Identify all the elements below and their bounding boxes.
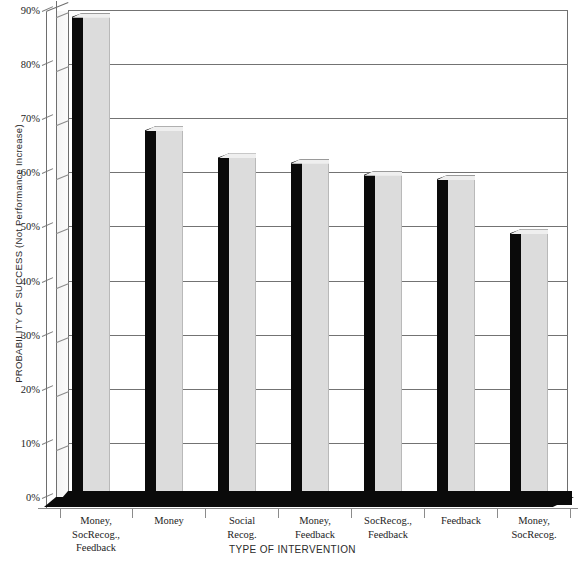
bar-side-face [72,13,83,497]
bar-front-face [228,157,256,497]
gridline [68,64,568,65]
y-tick-label: 80% [6,59,40,70]
bar-side-face [364,171,375,497]
y-tick-label: 70% [6,113,40,124]
bar-front-face [155,130,183,497]
bar [437,175,475,497]
x-axis-title: TYPE OF INTERVENTION [0,544,585,555]
bar-top-face [510,229,548,234]
bar [510,229,548,497]
bar-top-face [145,126,183,131]
y-tick-leader [42,439,53,445]
bar-top-face [291,159,329,164]
y-tick-leader [42,60,53,66]
y-tick-leader [42,223,53,229]
bar-top-face [437,175,475,180]
bar [72,13,110,497]
y-tick-label: 90% [6,5,40,16]
y-tick-label: 50% [6,221,40,232]
bar-front-face [520,233,548,497]
bar [218,153,256,497]
gridline [68,118,568,119]
y-tick-leader [42,114,53,120]
y-tick-leader [42,493,53,499]
y-tick-leader [42,277,53,283]
bar [145,126,183,497]
y-axis-tick-labels: 90%80%70%60%50%40%30%20%10%0% [0,0,40,562]
y-tick-label: 40% [6,275,40,286]
bar-top-face [364,171,402,176]
y-tick-label: 30% [6,329,40,340]
bar-front-face [301,163,329,497]
bar-front-face [447,179,475,497]
bar-top-face [218,153,256,158]
bar [364,171,402,497]
y-tick-label: 60% [6,167,40,178]
bar-side-face [145,126,156,497]
bar-side-face [218,153,229,497]
plot-floor-edge [44,497,574,507]
y-tick-label: 10% [6,437,40,448]
y-tick-leader [42,168,53,174]
bar [291,159,329,497]
y-tick-leader [42,331,53,337]
plot-area [68,10,568,497]
bar-side-face [437,175,448,497]
bar-top-face [72,13,110,18]
y-axis-spine [46,12,47,508]
bar-side-face [291,159,302,497]
gridline [68,10,568,11]
y-tick-leader [42,385,53,391]
bar-front-face [82,17,110,497]
x-category-label: Money, SocRecog. [479,514,585,541]
bar-side-face [510,229,521,497]
bar-chart: PROBABILITY OF SUCCESS (Not Performance … [0,0,585,562]
bar-front-face [374,175,402,497]
y-tick-label: 0% [6,492,40,503]
plot-left-depth-wall [56,10,68,497]
y-tick-label: 20% [6,383,40,394]
